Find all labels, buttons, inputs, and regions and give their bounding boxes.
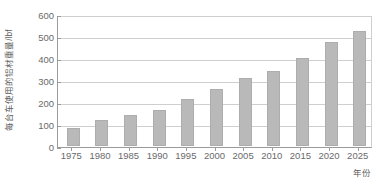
x-axis-tick-mark [157, 148, 158, 151]
x-axis-tick-mark [71, 148, 72, 151]
y-axis-tick-label: 400 [18, 55, 54, 65]
bar [325, 42, 338, 147]
x-axis-tick-label: 1975 [61, 150, 82, 161]
x-axis-tick-label: 2020 [318, 150, 339, 161]
bar-chart-figure: 每台车使用的铝材重量/lbf 0100200300400500600 19751… [0, 0, 379, 190]
bar [296, 58, 309, 146]
x-axis-tick-label: 1980 [89, 150, 110, 161]
y-axis-tick-mark [57, 104, 61, 105]
x-axis-tick-mark [300, 148, 301, 151]
y-axis-tick-label: 600 [18, 11, 54, 21]
bar [67, 128, 80, 146]
bar [181, 99, 194, 146]
y-axis-tick-mark [57, 82, 61, 83]
y-axis-tick-mark [57, 16, 61, 17]
bar [239, 78, 252, 146]
x-axis-tick-labels: 1975198019851990199520002005201020152020… [57, 150, 372, 164]
x-axis-tick-mark [272, 148, 273, 151]
gridline [58, 16, 371, 17]
plot-area [57, 16, 372, 148]
x-axis-tick-mark [358, 148, 359, 151]
bar [267, 71, 280, 146]
y-axis-tick-labels: 0100200300400500600 [14, 16, 54, 148]
x-axis-tick-label: 2015 [290, 150, 311, 161]
x-axis-tick-mark [243, 148, 244, 151]
y-axis-tick-label: 0 [18, 143, 54, 153]
bar [353, 31, 366, 147]
plot-wrapper [57, 16, 372, 148]
x-axis-tick-mark [329, 148, 330, 151]
x-axis-tick-mark [215, 148, 216, 151]
y-axis-tick-label: 100 [18, 121, 54, 131]
y-axis-tick-mark [57, 148, 61, 149]
y-axis-tick-mark [57, 126, 61, 127]
bars-layer [59, 18, 370, 146]
x-axis-tick-label: 1985 [118, 150, 139, 161]
x-axis-tick-label: 2010 [261, 150, 282, 161]
x-axis-tick-mark [129, 148, 130, 151]
x-axis-tick-mark [100, 148, 101, 151]
y-axis-title-text: 每台车使用的铝材重量/lbf [2, 29, 14, 130]
y-axis-tick-label: 200 [18, 99, 54, 109]
bar [95, 120, 108, 146]
x-axis-tick-mark [186, 148, 187, 151]
y-axis-tick-label: 500 [18, 33, 54, 43]
x-axis-tick-label: 2005 [233, 150, 254, 161]
x-axis-tick-label: 2000 [204, 150, 225, 161]
y-axis-tick-label: 300 [18, 77, 54, 87]
x-axis-tick-label: 2025 [347, 150, 368, 161]
x-axis-title: 年份 [353, 166, 371, 178]
x-axis-tick-label: 1990 [147, 150, 168, 161]
bar [153, 110, 166, 146]
y-axis-tick-mark [57, 60, 61, 61]
y-axis-tick-mark [57, 38, 61, 39]
bar [210, 89, 223, 146]
x-axis-tick-label: 1995 [175, 150, 196, 161]
bar [124, 115, 137, 146]
